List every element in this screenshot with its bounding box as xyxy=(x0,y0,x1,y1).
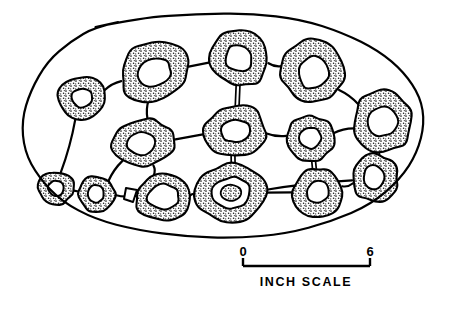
ring-hole xyxy=(72,89,93,108)
connection-line xyxy=(104,81,121,90)
connection-line xyxy=(61,119,76,172)
ring-shapes xyxy=(38,30,412,222)
ring-mid-right xyxy=(287,116,335,161)
ring-nw-small xyxy=(58,77,105,120)
ring-sw-small xyxy=(78,176,116,212)
connection-line xyxy=(239,86,240,107)
connection-line xyxy=(173,134,205,140)
ring-n-right xyxy=(280,39,345,102)
scale-bracket xyxy=(243,258,370,266)
ring-hole xyxy=(221,120,250,142)
connection-line xyxy=(268,63,281,66)
scale-caption: INCH SCALE xyxy=(260,275,352,289)
ring-e-lower xyxy=(354,153,398,202)
ring-mid-left xyxy=(111,118,175,166)
connection-line xyxy=(333,128,353,133)
connection-line xyxy=(266,133,286,136)
ring-hole xyxy=(88,185,104,203)
ring-s-center xyxy=(194,163,267,223)
connection-line xyxy=(342,183,352,186)
connection-line xyxy=(189,62,212,66)
scale-start-label: 0 xyxy=(239,244,246,259)
scale-bar: 0 6 INCH SCALE xyxy=(239,244,373,289)
connection-line xyxy=(339,90,359,105)
connection-line xyxy=(108,161,122,182)
ring-hole xyxy=(127,132,155,155)
ring-mid-center xyxy=(203,105,266,155)
connection-line xyxy=(235,86,236,107)
ring-s-right xyxy=(292,169,342,217)
ring-hole xyxy=(226,45,252,71)
ring-hole xyxy=(368,106,399,136)
ring-s-left xyxy=(136,174,189,221)
ring-n-center xyxy=(209,30,267,85)
ring-core xyxy=(221,185,242,201)
ring-sw-tiny xyxy=(38,173,74,205)
ring-cluster-figure: 0 6 INCH SCALE xyxy=(0,0,449,311)
ring-n-left xyxy=(123,42,188,103)
ring-tab xyxy=(124,188,137,202)
ring-hole xyxy=(307,181,329,203)
ring-e-upper xyxy=(354,89,412,152)
ring-hole xyxy=(299,128,321,149)
ring-hole xyxy=(364,165,385,189)
scale-end-label: 6 xyxy=(366,244,373,259)
